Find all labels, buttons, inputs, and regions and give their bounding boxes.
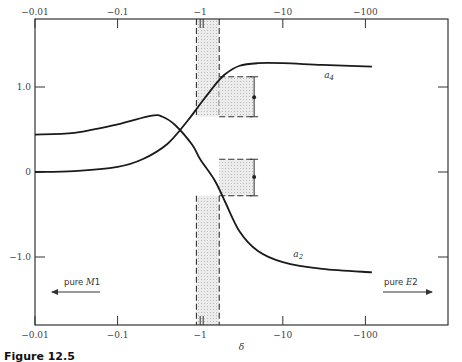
x-tick-label-bottom: −0.01: [21, 330, 49, 340]
x-tick-label-top: −0.01: [21, 7, 49, 17]
caption-label: Figure 12.5: [4, 350, 75, 362]
curve-label-a2-subscript: 2: [298, 253, 304, 261]
curve-label-a4-subscript: 4: [329, 74, 334, 82]
x-tick-label-top: −10: [273, 7, 292, 17]
x-tick-label-bottom: −1: [194, 330, 207, 340]
y-tick-label: −1.0: [9, 252, 31, 262]
band-upper: [196, 19, 219, 117]
x-axis-label: δ: [239, 342, 244, 352]
x-tick-label-bottom: −0.1: [107, 330, 129, 340]
chart: −0.01−0.01−0.1−0.1−1−1−10−10−100−100δ1.0…: [0, 0, 462, 362]
a4-measured-point: [252, 95, 256, 99]
band-lower: [196, 196, 219, 325]
a2-range-box: [219, 159, 254, 196]
x-tick-label-top: −100: [353, 7, 378, 17]
curve-label-a4: a4: [324, 70, 334, 82]
annotations: pure M1pure E2: [52, 277, 432, 292]
annotation-e-suffix: 2: [412, 277, 417, 287]
curve-label-a2: a2: [293, 249, 303, 261]
annotation-pure-m1: pure M1: [64, 277, 100, 287]
x-tick-label-top: −0.1: [107, 7, 129, 17]
y-tick-label: 0: [25, 167, 31, 177]
a2-measured-point: [252, 175, 256, 179]
y-tick-label: 1.0: [17, 82, 32, 92]
x-tick-label-top: −1: [194, 7, 207, 17]
annotation-m-italic: M: [85, 277, 95, 287]
annotation-m-suffix: 1: [95, 277, 100, 287]
annotation-pure-e2: pure E2: [384, 277, 418, 287]
a4-range-box: [219, 77, 254, 117]
x-tick-label-bottom: −10: [273, 330, 292, 340]
x-tick-label-bottom: −100: [353, 330, 378, 340]
figure-caption: Figure 12.5: [4, 350, 75, 362]
